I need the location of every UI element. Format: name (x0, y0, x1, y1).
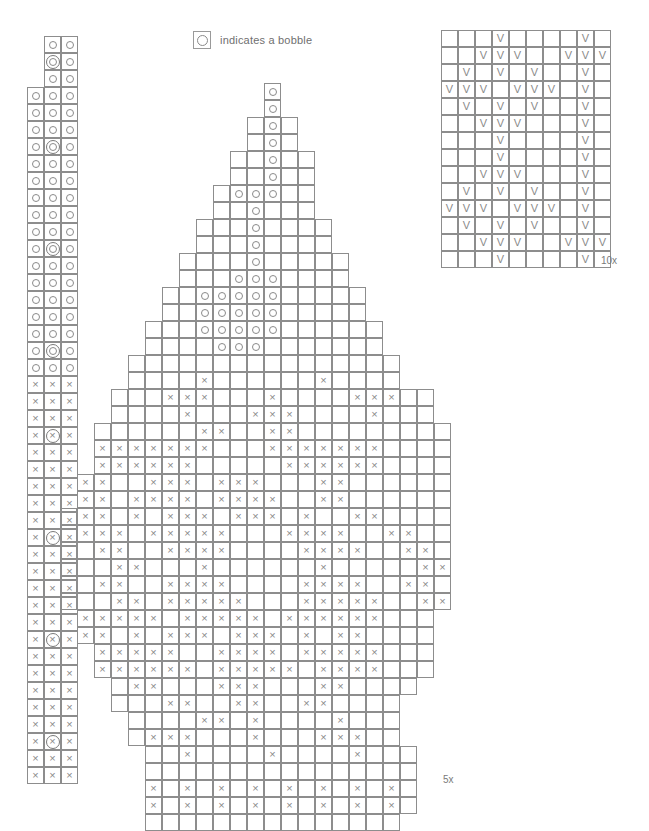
grid-cell-empty (230, 389, 247, 406)
grid-cell-empty (543, 132, 560, 149)
grid-cell-empty (264, 542, 281, 559)
cross-icon: × (167, 545, 173, 556)
grid-cell-empty (349, 814, 366, 831)
cross-icon: × (49, 447, 55, 458)
grid-cell-empty (298, 287, 315, 304)
teardrop-motif-chart[interactable]: ××××××××××××××××××××××××××××××××××××××××… (60, 83, 451, 831)
cross-icon: × (32, 481, 38, 492)
grid-cell-x: × (298, 610, 315, 627)
grid-cell-empty (492, 81, 509, 98)
grid-cell-empty (543, 115, 560, 132)
grid-cell-empty (366, 474, 383, 491)
grid-cell-x: × (27, 478, 44, 495)
grid-cell-x: × (162, 644, 179, 661)
grid-cell-empty (128, 372, 145, 389)
grid-cell-empty (298, 185, 315, 202)
grid-cell-x-bobble: × (44, 427, 61, 444)
grid-cell-x: × (247, 610, 264, 627)
cross-icon: × (320, 732, 326, 743)
grid-cell-x: × (349, 457, 366, 474)
grid-cell-empty (383, 712, 400, 729)
grid-cell-empty (247, 576, 264, 593)
grid-cell-o (27, 172, 44, 189)
cross-icon: × (337, 613, 343, 624)
cross-icon: × (184, 698, 190, 709)
grid-cell-x: × (27, 495, 44, 512)
grid-cell-x: × (145, 610, 162, 627)
grid-cell-empty (315, 304, 332, 321)
cross-icon: × (201, 630, 207, 641)
grid-cell-empty (315, 746, 332, 763)
grid-cell-o (230, 321, 247, 338)
chart-row (264, 100, 451, 117)
cross-icon: × (49, 617, 55, 628)
cross-icon: × (167, 630, 173, 641)
grid-cell-empty (213, 746, 230, 763)
grid-cell-empty (281, 508, 298, 525)
grid-cell-x: × (27, 444, 44, 461)
grid-cell-empty (475, 98, 492, 115)
grid-cell-x: × (213, 576, 230, 593)
grid-cell-x: × (298, 457, 315, 474)
vee-icon: V (480, 203, 487, 214)
grid-cell-empty (315, 338, 332, 355)
cross-icon: × (286, 409, 292, 420)
lace-repeat-chart[interactable]: VVVVVVVVVVVVVVVVVVVVVVVVVVVVVVVVVVVVVVVV… (441, 30, 611, 268)
cross-icon: × (337, 494, 343, 505)
cross-icon: × (133, 562, 139, 573)
grid-cell-x: × (94, 542, 111, 559)
grid-cell-x: × (366, 644, 383, 661)
grid-cell-empty (315, 423, 332, 440)
grid-cell-empty (526, 149, 543, 166)
grid-cell-empty (162, 780, 179, 797)
grid-cell-empty (179, 372, 196, 389)
grid-cell-empty (281, 542, 298, 559)
grid-cell-x: × (366, 406, 383, 423)
grid-cell-empty (366, 542, 383, 559)
cross-icon: × (32, 396, 38, 407)
grid-cell-empty (383, 508, 400, 525)
grid-cell-empty (60, 576, 77, 593)
grid-cell-empty (264, 576, 281, 593)
chart-row: ×××××××××××××××× (77, 610, 451, 627)
grid-cell-empty (332, 287, 349, 304)
cross-icon: × (320, 443, 326, 454)
grid-cell-v: V (492, 251, 509, 268)
cross-icon: × (32, 447, 38, 458)
circle-icon (49, 92, 57, 100)
cross-icon: × (82, 477, 88, 488)
grid-cell-empty (315, 508, 332, 525)
grid-cell-empty (145, 576, 162, 593)
grid-cell-empty (458, 166, 475, 183)
circle-icon (269, 105, 277, 113)
grid-cell-empty (145, 695, 162, 712)
grid-cell-empty (281, 134, 298, 151)
cross-icon: × (184, 664, 190, 675)
grid-cell-empty (434, 440, 451, 457)
chart-row: ×××××××××××× (77, 491, 451, 508)
cross-icon: × (150, 664, 156, 675)
grid-cell-empty (366, 525, 383, 542)
cross-icon: × (32, 719, 38, 730)
grid-cell-empty (366, 338, 383, 355)
grid-cell-empty (298, 270, 315, 287)
circle-icon (49, 75, 57, 83)
grid-cell-empty (247, 593, 264, 610)
circle-icon (32, 211, 40, 219)
vee-icon: V (582, 50, 589, 61)
grid-cell-x: × (145, 644, 162, 661)
grid-cell-o (27, 291, 44, 308)
grid-cell-empty (366, 780, 383, 797)
cross-icon: × (235, 630, 241, 641)
grid-cell-empty (332, 270, 349, 287)
grid-cell-x: × (349, 661, 366, 678)
grid-cell-empty (281, 270, 298, 287)
grid-cell-empty (594, 81, 611, 98)
grid-cell-o (27, 155, 44, 172)
grid-cell-x: × (349, 440, 366, 457)
vee-icon: V (463, 101, 470, 112)
grid-cell-o (61, 53, 78, 70)
grid-cell-empty (179, 321, 196, 338)
grid-cell-empty (196, 729, 213, 746)
cross-icon: × (167, 443, 173, 454)
